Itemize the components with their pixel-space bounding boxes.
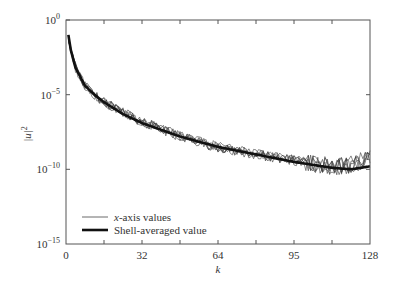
y-axis-label: |u|2 <box>20 126 33 142</box>
x-tick-64: 64 <box>213 249 225 261</box>
legend: x-axis values Shell-averaged value <box>82 211 207 236</box>
x-tick-128: 128 <box>362 249 379 261</box>
plot-frame <box>66 20 370 244</box>
x-axis-values-line <box>68 36 370 174</box>
legend-item-x-axis-values: x-axis values <box>113 211 171 223</box>
x-axis-values-lines <box>68 36 370 175</box>
y-axis: 100 10−5 10−10 10−15 |u|2 <box>20 12 370 250</box>
legend-item-shell-averaged: Shell-averaged value <box>114 224 207 236</box>
y-tick-1: 10−5 <box>40 87 60 101</box>
x-tick-95: 95 <box>289 249 301 261</box>
x-axis-values-line <box>68 36 370 174</box>
spectrum-chart: 100 10−5 10−10 10−15 |u|2 0 32 64 95 128… <box>0 0 394 286</box>
x-tick-32: 32 <box>137 249 148 261</box>
x-tick-0: 0 <box>63 249 69 261</box>
y-tick-0: 100 <box>45 12 60 26</box>
y-tick-3: 10−15 <box>36 236 60 250</box>
x-axis-label: k <box>216 263 222 275</box>
y-tick-2: 10−10 <box>36 161 60 175</box>
